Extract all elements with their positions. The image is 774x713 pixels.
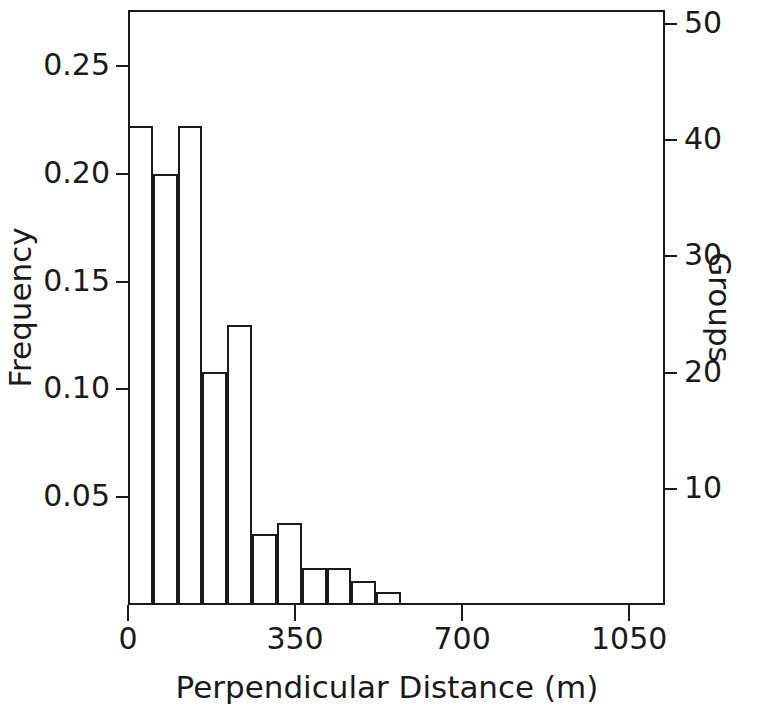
x-axis-tick xyxy=(294,605,296,621)
y2-axis-tick xyxy=(665,23,677,25)
y-axis-tick xyxy=(116,173,128,175)
y2-axis-tick xyxy=(665,372,677,374)
x-axis-tick xyxy=(127,605,129,621)
x-axis-tick-label: 0 xyxy=(118,624,137,654)
x-axis-title: Perpendicular Distance (m) xyxy=(0,672,774,703)
y-axis-tick-label: 0.10 xyxy=(43,373,110,403)
y2-axis-tick xyxy=(665,255,677,257)
x-axis-tick-label: 1050 xyxy=(591,624,667,654)
y-axis-title: Frequency xyxy=(0,10,40,605)
plot-frame xyxy=(128,10,665,605)
y2-axis-tick xyxy=(665,488,677,490)
y-axis-tick xyxy=(116,65,128,67)
histogram-figure: 0.050.100.150.200.2510203040500350700105… xyxy=(0,0,774,713)
x-axis-tick xyxy=(461,605,463,621)
y-axis-tick-label: 0.25 xyxy=(43,50,110,80)
y-axis-tick xyxy=(116,388,128,390)
y-axis-tick-label: 0.15 xyxy=(43,266,110,296)
x-axis-tick xyxy=(628,605,630,621)
y-axis-tick-label: 0.20 xyxy=(43,158,110,188)
x-axis-tick-label: 700 xyxy=(433,624,490,654)
y2-axis-title: Groups xyxy=(700,10,740,605)
y-axis-tick xyxy=(116,496,128,498)
y-axis-tick-label: 0.05 xyxy=(43,481,110,511)
y-axis-tick xyxy=(116,281,128,283)
y2-axis-tick xyxy=(665,139,677,141)
x-axis-tick-label: 350 xyxy=(266,624,323,654)
